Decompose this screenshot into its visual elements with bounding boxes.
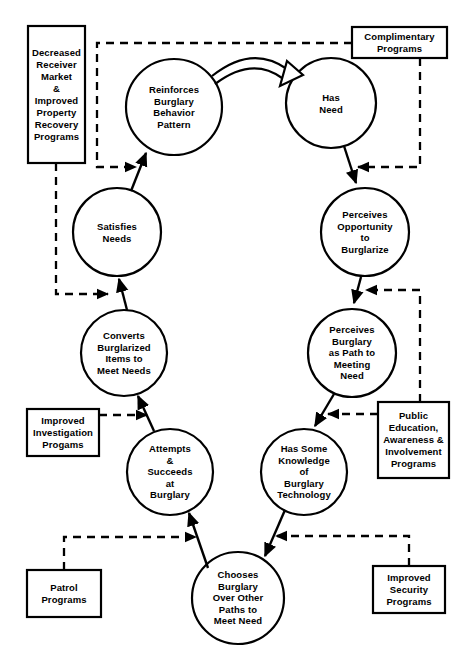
node-reinforces-burglary-behavior-pattern xyxy=(126,59,222,155)
edge-attempts-to-converts xyxy=(138,396,154,431)
box-improved-investigation-programs xyxy=(27,409,99,456)
node-perceives-burglary-as-path xyxy=(308,309,396,397)
edge-satisfies-to-reinforces xyxy=(131,153,146,191)
box-decreased-receiver-market xyxy=(28,26,85,163)
node-circles xyxy=(73,58,409,644)
program-boxes xyxy=(27,26,449,617)
edge-patrol-to-attempts xyxy=(64,537,196,570)
node-has-some-knowledge-of-burglary-technology xyxy=(261,429,347,515)
node-chooses-burglary-over-other-paths xyxy=(192,552,284,644)
box-patrol-programs xyxy=(27,570,101,617)
box-complimentary-programs xyxy=(352,27,447,58)
node-attempts-succeeds-at-burglary xyxy=(127,429,213,515)
edge-improved-security-to-chooses xyxy=(276,536,409,566)
burglary-cycle-diagram: Reinforces Burglary Behavior Pattern Has… xyxy=(0,0,473,670)
edge-has-knowledge-to-chooses xyxy=(265,510,285,556)
diagram-canvas xyxy=(0,0,473,670)
edge-perceives-path-to-has-knowledge xyxy=(315,394,334,426)
edge-has-need-to-perceives-opportunity xyxy=(344,146,356,183)
edge-perceives-opportunity-to-perceives-path xyxy=(354,277,361,303)
node-converts-burglarized-items xyxy=(81,310,167,396)
edge-reinforces-to-has-need xyxy=(212,58,303,86)
box-improved-security-programs xyxy=(373,566,445,613)
edge-converts-to-satisfies xyxy=(119,279,127,310)
node-perceives-opportunity-to-burglarize xyxy=(321,188,409,276)
node-satisfies-needs xyxy=(73,188,161,276)
box-public-education-programs xyxy=(378,402,449,478)
edge-chooses-to-attempts xyxy=(189,513,208,568)
